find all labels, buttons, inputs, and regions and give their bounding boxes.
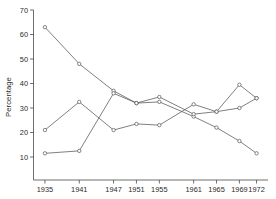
series-line-2 <box>45 85 257 154</box>
series-3-point-1935 <box>43 128 46 131</box>
series-3-point-1947 <box>112 128 115 131</box>
x-tick-label: 1961 <box>185 185 201 194</box>
x-tick-label: 1955 <box>151 185 167 194</box>
series-1-point-1941 <box>78 62 81 65</box>
chart-container: 10203040506070 1935194119471951195519611… <box>0 0 276 199</box>
y-tick-label: 50 <box>20 55 28 64</box>
series-3-point-1961 <box>192 103 195 106</box>
y-tick-label: 30 <box>20 104 28 113</box>
series-1-point-1935 <box>43 25 46 28</box>
series-3-point-1955 <box>158 123 161 126</box>
series-2-point-1947 <box>112 92 115 95</box>
x-tick-label: 1972 <box>248 185 264 194</box>
series-3-point-1941 <box>78 100 81 103</box>
y-tick-label: 40 <box>20 79 28 88</box>
series-2-point-1935 <box>43 152 46 155</box>
series-line-1 <box>45 27 257 153</box>
x-axis-ticks: 193519411947195119551961196519691972 <box>37 180 265 194</box>
series-2-point-1969 <box>238 83 241 86</box>
series-3-point-1965 <box>215 110 218 113</box>
chart-series <box>43 25 258 155</box>
series-line-3 <box>45 98 257 130</box>
x-tick-label: 1951 <box>128 185 144 194</box>
series-3-point-1972 <box>255 97 258 100</box>
x-tick-label: 1969 <box>231 185 247 194</box>
x-tick-label: 1965 <box>208 185 224 194</box>
x-tick-label: 1947 <box>105 185 121 194</box>
series-2-point-1951 <box>135 101 138 104</box>
y-tick-label: 20 <box>20 128 28 137</box>
y-axis-title: Percentage <box>4 77 13 117</box>
series-2-point-1955 <box>158 95 161 98</box>
chart-axes <box>34 10 269 180</box>
x-tick-label: 1935 <box>37 185 53 194</box>
line-chart-plot: 10203040506070 1935194119471951195519611… <box>0 0 276 199</box>
series-1-point-1965 <box>215 126 218 129</box>
series-2-point-1941 <box>78 149 81 152</box>
series-1-point-1955 <box>158 100 161 103</box>
y-tick-label: 60 <box>20 30 28 39</box>
series-3-point-1951 <box>135 122 138 125</box>
series-3-point-1969 <box>238 106 241 109</box>
series-1-point-1969 <box>238 139 241 142</box>
series-2-point-1961 <box>192 112 195 115</box>
y-tick-label: 10 <box>20 153 28 162</box>
x-tick-label: 1941 <box>71 185 87 194</box>
y-tick-label: 70 <box>20 6 28 15</box>
series-1-point-1972 <box>255 152 258 155</box>
y-axis-ticks: 10203040506070 <box>20 6 34 162</box>
